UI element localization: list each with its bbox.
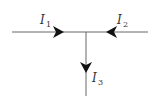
svg-text:3: 3 bbox=[98, 78, 103, 87]
svg-text:I: I bbox=[91, 71, 97, 85]
label-i1: I 1 bbox=[39, 13, 51, 29]
svg-text:2: 2 bbox=[123, 20, 128, 29]
label-i3: I 3 bbox=[91, 71, 103, 87]
svg-text:1: 1 bbox=[46, 20, 51, 29]
svg-text:I: I bbox=[116, 13, 122, 27]
junction-diagram: I 1 I 2 I 3 bbox=[0, 0, 157, 99]
label-i2: I 2 bbox=[116, 13, 128, 29]
svg-text:I: I bbox=[39, 13, 45, 27]
